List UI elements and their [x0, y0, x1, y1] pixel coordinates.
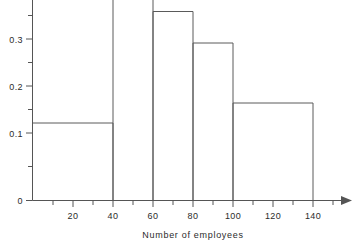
x-axis-title: Number of employees — [142, 230, 243, 240]
histogram-chart: 0 0.1 0.2 0.3 20 4 — [0, 0, 360, 247]
x-tick-label-80: 80 — [188, 211, 199, 221]
chart-canvas: 0 0.1 0.2 0.3 20 4 — [0, 0, 360, 247]
bars-group — [33, 0, 314, 200]
x-tick-label-20: 20 — [68, 211, 79, 221]
x-axis: 20 40 60 80 100 120 140 Number of employ… — [33, 196, 353, 240]
y-axis: 0 0.1 0.2 0.3 — [9, 0, 32, 206]
bar-0-40 — [33, 123, 114, 200]
y-tick-label-0.3: 0.3 — [9, 35, 23, 45]
x-axis-arrow-icon — [341, 196, 352, 205]
bar-60-80 — [153, 12, 193, 201]
y-tick-label-0.1: 0.1 — [9, 129, 23, 139]
bar-40-60 — [113, 0, 153, 200]
y-tick-label-0: 0 — [18, 196, 23, 206]
x-tick-label-60: 60 — [148, 211, 159, 221]
x-tick-label-100: 100 — [225, 211, 241, 221]
x-tick-label-40: 40 — [108, 211, 119, 221]
bar-100-140 — [233, 103, 313, 200]
y-tick-label-0.2: 0.2 — [9, 82, 23, 92]
bar-80-100 — [193, 43, 233, 200]
x-tick-label-140: 140 — [305, 211, 321, 221]
x-tick-label-120: 120 — [265, 211, 281, 221]
